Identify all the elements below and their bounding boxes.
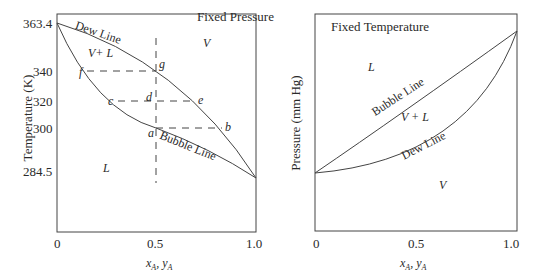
left-x-axis-label: xA, yA xyxy=(146,256,172,272)
point-c: c xyxy=(108,94,113,109)
right-x-tick-1-0: 1.0 xyxy=(503,236,519,252)
right-chart-title: Fixed Temperature xyxy=(331,19,429,35)
left-region-vapor: V xyxy=(203,36,210,51)
left-x-tick-0-5: 0.5 xyxy=(147,236,163,252)
y-sub: A xyxy=(168,263,173,272)
right-y-axis-label: Pressure (mm Hg) xyxy=(288,63,304,183)
left-region-two-phase: V+ L xyxy=(88,46,113,61)
left-x-tick-0: 0 xyxy=(54,236,61,252)
y-tick-320: 320 xyxy=(33,94,53,110)
y-tick-284-5: 284.5 xyxy=(23,164,52,180)
point-e: e xyxy=(198,93,203,108)
y-tick-363-4: 363.4 xyxy=(23,16,52,32)
left-bubble-line xyxy=(57,23,256,178)
y-sub: A xyxy=(422,263,427,272)
left-chart-title: Fixed Pressure xyxy=(197,9,274,25)
right-x-tick-0: 0 xyxy=(313,236,320,252)
left-x-tick-1-0: 1.0 xyxy=(246,236,262,252)
right-x-axis-label: xA, yA xyxy=(400,256,426,272)
left-dew-line xyxy=(57,23,256,178)
right-region-liquid: L xyxy=(368,60,375,75)
right-region-two-phase: V + L xyxy=(401,110,429,125)
point-f: f xyxy=(79,65,82,80)
right-x-tick-0-5: 0.5 xyxy=(408,236,424,252)
point-a: a xyxy=(148,126,154,141)
left-region-liquid: L xyxy=(103,161,110,176)
y-var: , y xyxy=(156,256,167,270)
y-tick-300: 300 xyxy=(33,121,53,137)
phase-diagrams xyxy=(0,0,533,277)
y-tick-340: 340 xyxy=(33,64,53,80)
right-region-vapor: V xyxy=(439,178,446,193)
y-var: , y xyxy=(410,256,421,270)
left-y-axis-label: Temperature (K) xyxy=(20,68,36,168)
point-b: b xyxy=(225,120,231,135)
point-d: d xyxy=(146,90,152,105)
point-g: g xyxy=(159,57,165,72)
